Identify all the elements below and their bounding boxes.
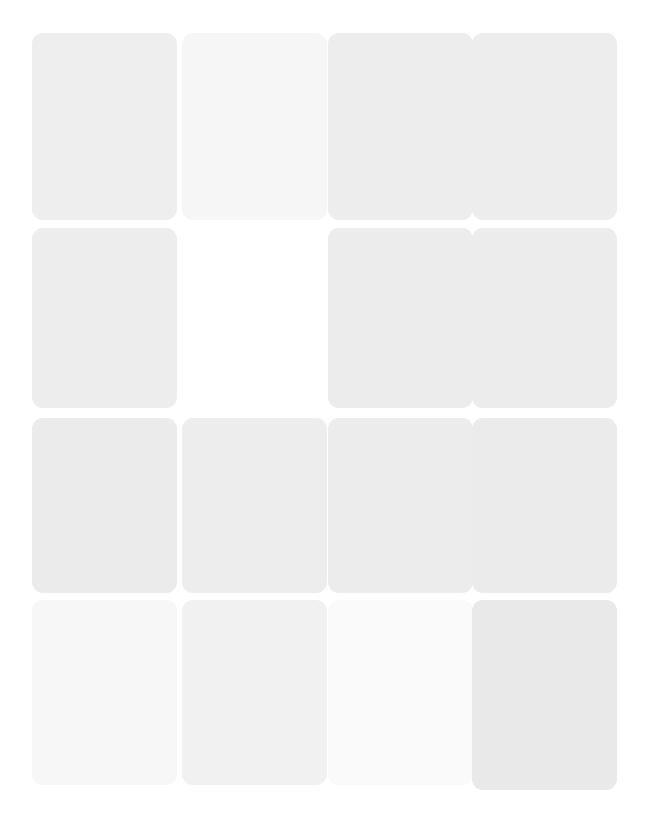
- card[interactable]: [472, 418, 617, 593]
- card-empty-slot: [182, 228, 327, 408]
- page-root: [0, 0, 647, 838]
- card[interactable]: [472, 33, 617, 220]
- card[interactable]: [182, 600, 327, 785]
- card[interactable]: [32, 600, 177, 785]
- card[interactable]: [328, 418, 473, 593]
- card[interactable]: [182, 33, 327, 220]
- card[interactable]: [328, 228, 473, 408]
- card[interactable]: [32, 33, 177, 220]
- card-grid: [0, 0, 647, 838]
- card[interactable]: [32, 418, 177, 593]
- card[interactable]: [182, 418, 327, 593]
- card[interactable]: [328, 33, 473, 220]
- card[interactable]: [472, 228, 617, 408]
- card[interactable]: [472, 600, 617, 790]
- card[interactable]: [32, 228, 177, 408]
- card[interactable]: [328, 600, 473, 785]
